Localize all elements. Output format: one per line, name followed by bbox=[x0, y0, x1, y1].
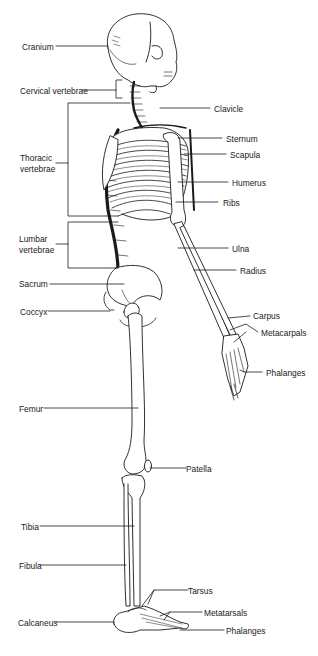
label-metacarpals: Metacarpals bbox=[261, 327, 307, 338]
label-metatarsals: Metatarsals bbox=[204, 607, 247, 618]
label-patella: Patella bbox=[186, 463, 212, 474]
femur-icon bbox=[124, 313, 146, 474]
label-radius: Radius bbox=[240, 265, 266, 276]
label-tibia: Tibia bbox=[21, 521, 39, 532]
skeleton-diagram: Cranium Cervical vertebrae Thoracic vert… bbox=[0, 0, 318, 656]
hand-icon bbox=[222, 334, 248, 400]
label-sternum: Sternum bbox=[226, 133, 258, 144]
label-tarsus: Tarsus bbox=[188, 585, 213, 596]
patella-icon bbox=[145, 460, 152, 472]
label-femur: Femur bbox=[19, 403, 43, 414]
label-phalanges-foot: Phalanges bbox=[226, 625, 266, 636]
label-scapula: Scapula bbox=[230, 149, 260, 160]
label-thoracic-vertebrae-line2: vertebrae bbox=[20, 163, 55, 174]
label-coccyx: Coccyx bbox=[20, 306, 47, 317]
foot-icon bbox=[114, 606, 189, 632]
label-cervical-vertebrae: Cervical vertebrae bbox=[20, 85, 88, 96]
label-clavicle: Clavicle bbox=[214, 103, 243, 114]
cervical-vertebrae-icon bbox=[130, 82, 147, 128]
label-thoracic-vertebrae-line1: Thoracic bbox=[20, 152, 52, 163]
label-humerus: Humerus bbox=[232, 177, 266, 188]
label-cranium: Cranium bbox=[22, 41, 54, 52]
label-lumbar-vertebrae-line2: vertebrae bbox=[19, 244, 54, 255]
label-calcaneus: Calcaneus bbox=[18, 617, 58, 628]
label-carpus: Carpus bbox=[253, 310, 280, 321]
skull-icon bbox=[107, 14, 177, 93]
label-ulna: Ulna bbox=[232, 243, 249, 254]
label-lumbar-vertebrae-line1: Lumbar bbox=[19, 233, 47, 244]
label-fibula: Fibula bbox=[19, 560, 42, 571]
label-sacrum: Sacrum bbox=[19, 278, 48, 289]
label-phalanges-hand: Phalanges bbox=[266, 367, 306, 378]
tibia-icon bbox=[122, 475, 145, 606]
label-ribs: Ribs bbox=[223, 197, 240, 208]
forearm-icon bbox=[174, 222, 236, 338]
